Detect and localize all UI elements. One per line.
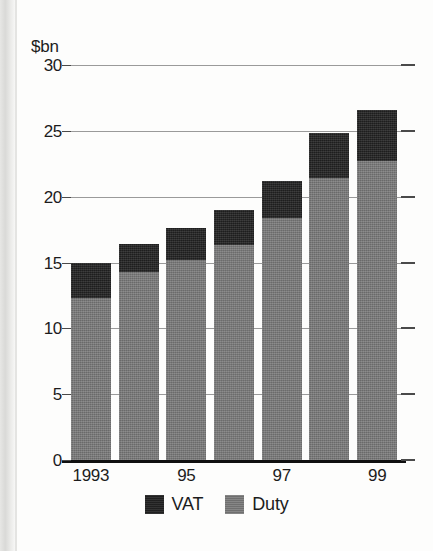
bar-1999 bbox=[357, 110, 397, 460]
bar-segment-vat bbox=[214, 210, 254, 246]
x-axis-baseline bbox=[62, 460, 406, 463]
y-axis-tick-label: 10 bbox=[28, 319, 62, 339]
bar-segment-vat bbox=[119, 244, 159, 272]
y-axis-tick-mark bbox=[62, 263, 71, 264]
bar-1995 bbox=[166, 228, 206, 460]
plot-area bbox=[67, 65, 401, 460]
y-axis-tick-mark-right bbox=[401, 459, 415, 461]
y-axis-tick-mark bbox=[62, 328, 71, 329]
legend-label: Duty bbox=[252, 494, 288, 515]
vat-swatch bbox=[145, 495, 164, 514]
y-axis-tick-label: 25 bbox=[28, 122, 62, 142]
x-axis-tick-label: 1993 bbox=[73, 466, 110, 486]
y-axis-tick-mark bbox=[62, 131, 71, 132]
bar-segment-duty bbox=[71, 298, 111, 460]
bar-segment-vat bbox=[166, 228, 206, 260]
bar-1993 bbox=[71, 263, 111, 461]
bar-segment-vat bbox=[71, 263, 111, 299]
bar-1998 bbox=[309, 133, 349, 460]
gridline bbox=[67, 65, 401, 66]
stacked-bar-chart: $bn 051015202530 1993959799 VATDuty bbox=[0, 0, 433, 551]
bar-segment-duty bbox=[309, 178, 349, 460]
y-axis-tick-mark-right bbox=[401, 64, 415, 66]
y-axis-tick-label: 0 bbox=[28, 451, 62, 471]
legend-item-vat: VAT bbox=[145, 494, 204, 515]
y-axis-tick-mark bbox=[62, 65, 71, 66]
bar-segment-duty bbox=[166, 260, 206, 460]
bar-segment-duty bbox=[357, 161, 397, 460]
gridline bbox=[67, 131, 401, 132]
y-axis-tick-mark-right bbox=[401, 130, 415, 132]
y-axis-tick-label: 5 bbox=[28, 385, 62, 405]
bar-segment-vat bbox=[262, 181, 302, 218]
chart-page: $bn 051015202530 1993959799 VATDuty bbox=[0, 0, 433, 551]
bar-segment-duty bbox=[119, 272, 159, 460]
bar-1997 bbox=[262, 181, 302, 460]
y-axis-tick-mark bbox=[62, 394, 71, 395]
bar-segment-duty bbox=[214, 245, 254, 460]
y-axis-tick-label: 30 bbox=[28, 56, 62, 76]
y-axis-unit-label: $bn bbox=[31, 37, 59, 57]
y-axis-tick-labels: 051015202530 bbox=[24, 65, 62, 460]
x-axis-tick-label: 97 bbox=[273, 466, 291, 486]
legend-item-duty: Duty bbox=[225, 494, 288, 515]
y-axis-tick-mark-right bbox=[401, 327, 415, 329]
bar-segment-duty bbox=[262, 218, 302, 460]
chart-legend: VATDuty bbox=[0, 494, 433, 515]
legend-label: VAT bbox=[172, 494, 204, 515]
duty-swatch bbox=[225, 495, 244, 514]
y-axis-tick-mark-right bbox=[401, 393, 415, 395]
x-axis-tick-label: 99 bbox=[368, 466, 386, 486]
bar-1994 bbox=[119, 244, 159, 460]
y-axis-tick-mark-right bbox=[401, 196, 415, 198]
y-axis-tick-label: 15 bbox=[28, 254, 62, 274]
gridline bbox=[67, 197, 401, 198]
y-axis-tick-label: 20 bbox=[28, 188, 62, 208]
y-axis-tick-mark-right bbox=[401, 262, 415, 264]
bar-1996 bbox=[214, 210, 254, 460]
bar-segment-vat bbox=[357, 110, 397, 161]
x-axis-tick-label: 95 bbox=[177, 466, 195, 486]
y-axis-tick-mark bbox=[62, 197, 71, 198]
bar-segment-vat bbox=[309, 133, 349, 178]
x-axis-tick-labels: 1993959799 bbox=[67, 466, 401, 492]
y-axis-tick-mark bbox=[62, 460, 71, 461]
